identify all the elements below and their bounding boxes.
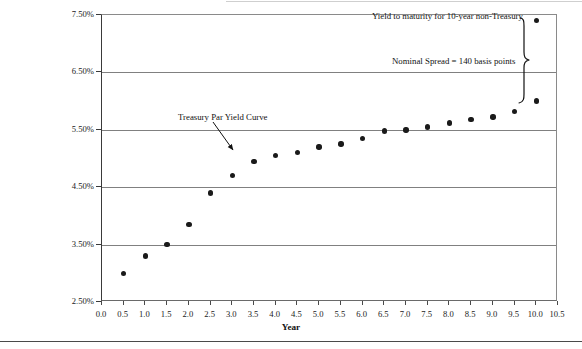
x-axis-tickmark [362,301,363,305]
annotation-yield-to-maturity-non-treasury: Yield to maturity for 10-year non-Treasu… [372,11,523,21]
x-axis-tickmark [188,301,189,305]
x-axis-tick-label: 10.5 [549,309,564,319]
x-axis-tick-label: 4.0 [269,309,280,319]
x-axis-tick-label: 8.5 [465,309,476,319]
x-axis-tick-label: 7.0 [400,309,411,319]
x-axis-tick-label: 5.0 [313,309,324,319]
x-axis-tickmark [535,301,536,305]
x-axis-tick-label: 2.5 [204,309,215,319]
x-axis-tickmark [166,301,167,305]
y-axis-tickmark [96,14,101,15]
x-axis-tick-label: 1.5 [161,309,172,319]
y-axis-tick-label: 6.50% [22,66,94,76]
y-axis-tick-label: 3.50% [22,239,94,249]
x-axis-tick-label: 1.0 [139,309,150,319]
x-axis-tick-label: 5.5 [334,309,345,319]
x-axis-tickmark [557,301,558,305]
x-axis-tickmark [405,301,406,305]
x-axis-tickmark [318,301,319,305]
x-axis-tick-label: 2.0 [182,309,193,319]
x-axis-tickmark [492,301,493,305]
x-axis-tickmark [253,301,254,305]
x-axis-tickmark [123,301,124,305]
x-axis-tick-label: 6.5 [378,309,389,319]
y-axis-tickmark [96,244,101,245]
x-axis-tick-label: 9.5 [508,309,519,319]
x-axis-tickmark [427,301,428,305]
y-axis-tickmark [96,129,101,130]
x-axis-tickmark [448,301,449,305]
x-axis-tickmark [210,301,211,305]
y-axis-tick-label: 5.50% [22,124,94,134]
x-axis-tick-label: 4.5 [291,309,302,319]
yield-curve-figure: 7.50%6.50%5.50%4.50%3.50%2.50% 0.00.51.0… [0,0,582,349]
x-axis-tickmark [340,301,341,305]
x-axis-tick-label: 3.5 [248,309,259,319]
x-axis-tick-label: 8.0 [443,309,454,319]
y-axis: 7.50%6.50%5.50%4.50%3.50%2.50% [0,0,582,349]
annotation-treasury-par-yield-curve: Treasury Par Yield Curve [178,112,268,122]
x-axis-tick-label: 3.0 [226,309,237,319]
x-axis-tickmark [514,301,515,305]
y-axis-tick-label: 4.50% [22,181,94,191]
x-axis-tick-label: 0.5 [117,309,128,319]
x-axis-tickmark [231,301,232,305]
x-axis-tick-label: 6.0 [356,309,367,319]
y-axis-tickmark [96,71,101,72]
x-axis-tickmark [101,301,102,305]
x-axis-tick-label: 9.0 [486,309,497,319]
y-axis-tick-label: 7.50% [22,9,94,19]
x-axis-tickmark [470,301,471,305]
y-axis-tickmark [96,186,101,187]
x-axis-tick-label: 0.0 [96,309,107,319]
y-axis-tick-label: 2.50% [22,296,94,306]
x-axis-title: Year [0,322,582,332]
x-axis-tickmark [383,301,384,305]
x-axis-tickmark [275,301,276,305]
x-axis-tick-label: 10.0 [528,309,543,319]
x-axis-tickmark [144,301,145,305]
annotation-nominal-spread: Nominal Spread = 140 basis points [392,56,515,66]
x-axis-tick-label: 7.5 [421,309,432,319]
footer-divider-rule [0,341,582,342]
x-axis-tickmark [296,301,297,305]
